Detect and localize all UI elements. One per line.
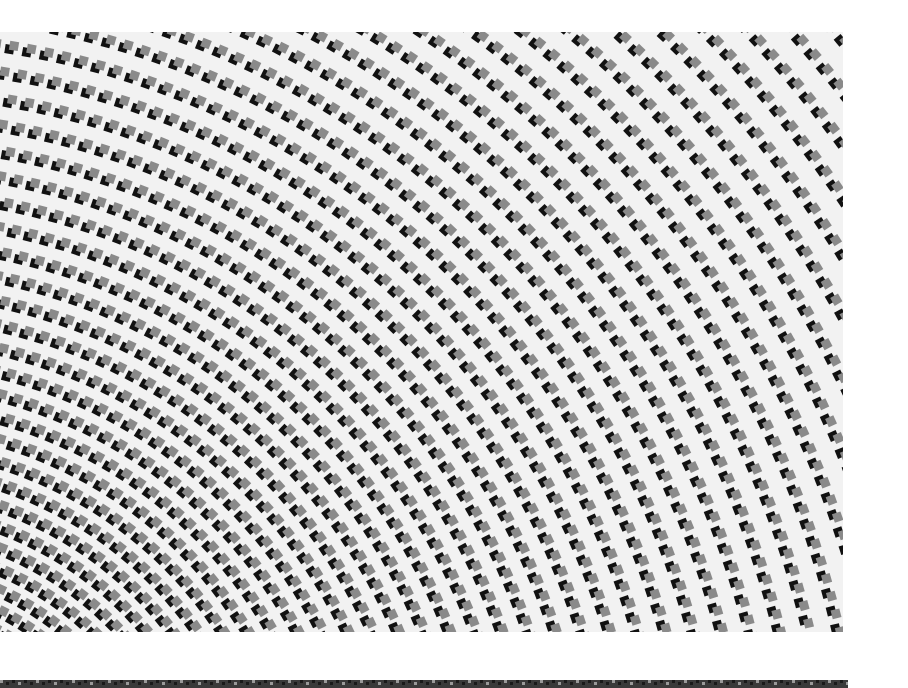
- heliostat-field-photo: [0, 32, 843, 632]
- bottom-photo-strip: [0, 680, 848, 688]
